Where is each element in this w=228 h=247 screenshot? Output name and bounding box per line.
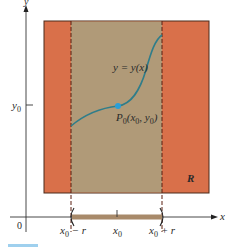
diagram-canvas: y x 0 y0 y = y(x) P0(x0, y0) R x0 − r x0… <box>0 0 228 247</box>
region-r-label: R <box>186 172 194 184</box>
x-axis-arrow-icon <box>211 215 218 220</box>
x0-minus-r-label: x0 − r <box>59 224 87 239</box>
x-axis-label: x <box>219 210 225 222</box>
y-axis-label: y <box>23 0 29 7</box>
point-p0 <box>115 103 121 109</box>
x0-plus-r-label: x0 + r <box>148 224 176 239</box>
y0-label: y0 <box>11 99 21 114</box>
curve-label: y = y(x) <box>112 61 148 74</box>
origin-label: 0 <box>17 220 22 231</box>
x0-label: x0 <box>112 224 122 239</box>
